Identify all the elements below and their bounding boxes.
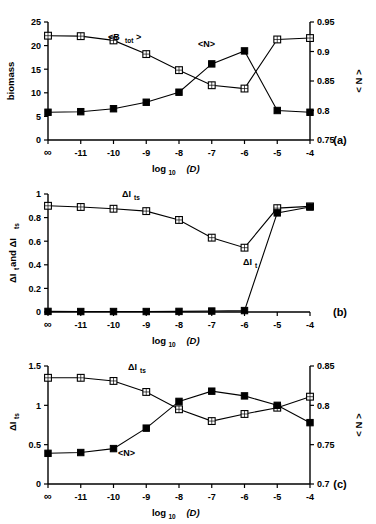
x-tick-label: -7 [208,492,216,502]
y-axis-left-title-text: ΔI [7,274,18,283]
series-it-marker [274,210,280,216]
x-tick-label: -6 [240,148,248,158]
curve-label-its: ΔIts [128,362,146,374]
series-n-marker [143,425,149,431]
curve-label-its: ΔIts [122,189,140,201]
panel-b-plot: 00.20.40.60.81∞-11-10-9-8-7-6-5-4log10(D… [0,172,376,348]
y-right-tick-label: 0.95 [317,17,335,27]
curve-label-btot-end: > [136,32,141,42]
series-n-marker [209,61,215,67]
x-tick-label: ∞ [44,146,52,158]
y-left-tick-label: 1 [36,189,41,199]
y-axis-left-title-mid: and ΔI [7,238,18,267]
y-left-tick-label: 1.5 [28,361,41,371]
y-left-tick-label: 0.4 [28,260,41,270]
panel-b: 00.20.40.60.81∞-11-10-9-8-7-6-5-4log10(D… [0,172,376,348]
series-n-line [48,51,310,112]
x-tick-label: -4 [306,148,314,158]
curve-label-n: <N> [118,448,135,458]
panel-tag-c: (c) [333,478,347,490]
curve-label-its-sub: ts [140,367,146,374]
curve-label-btot-text: <B [108,32,120,42]
y-right-tick-label: 0.8 [317,401,330,411]
figure-container: 05101520250.750.80.850.90.95∞-11-10-9-8-… [0,0,376,524]
y-axis-right-title-text: < N > [353,69,364,93]
series-n-marker [143,99,149,105]
y-axis-left-title-sub: ts [13,413,20,419]
series-n-marker [176,398,182,404]
series-n-marker [45,109,51,115]
x-tick-label: -6 [240,320,248,330]
series-n-marker [110,445,116,451]
x-tick-label: -6 [240,492,248,502]
series-n-marker [176,89,182,95]
y-axis-left-title-text: biomass [5,62,16,101]
x-tick-label: -11 [74,492,87,502]
series-its-line [48,206,310,248]
series-btot-line [48,36,310,89]
y-axis-right-title: < N > [353,413,364,437]
series-it-marker [110,308,116,314]
series-n-marker [307,419,313,425]
panel-a: 05101520250.750.80.850.90.95∞-11-10-9-8-… [0,0,376,176]
series-it-marker [78,308,84,314]
y-left-tick-label: 0 [36,135,41,145]
series-n-marker [45,450,51,456]
y-left-tick-label: 15 [31,65,41,75]
y-left-tick-label: 20 [31,41,41,51]
y-right-tick-label: 0.85 [317,361,335,371]
x-tick-label: -5 [273,148,281,158]
x-tick-label: -5 [273,492,281,502]
series-n-marker [307,109,313,115]
x-tick-label: -8 [175,320,183,330]
x-tick-label: -8 [175,148,183,158]
y-axis-left-title-sub2: ts [13,223,20,229]
x-tick-label: ∞ [44,318,52,330]
x-axis-title-var: (D) [186,507,199,518]
curve-label-it: ΔIt [243,257,258,269]
series-n-marker [110,106,116,112]
y-axis-right-title: < N > [353,69,364,93]
y-right-tick-label: 0.75 [317,440,335,450]
y-left-tick-label: 25 [31,17,41,27]
series-n-marker [78,449,84,455]
y-axis-left-title-text: ΔI [7,422,18,431]
series-it-marker [143,308,149,314]
y-left-tick-label: 0.6 [28,237,41,247]
series-n-marker [241,393,247,399]
x-tick-label: -7 [208,148,216,158]
x-tick-label: ∞ [44,490,52,502]
series-n-marker [209,388,215,394]
curve-label-it-sub: t [255,262,258,269]
curve-label-it-text: ΔI [243,257,252,267]
series-it-marker [307,204,313,210]
x-tick-label: -4 [306,492,314,502]
panel-a-plot: 05101520250.750.80.850.90.95∞-11-10-9-8-… [0,0,376,176]
x-tick-label: -5 [273,320,281,330]
series-n-marker [274,107,280,113]
x-tick-label: -8 [175,492,183,502]
x-tick-label: -10 [107,148,120,158]
y-left-tick-label: 0.8 [28,213,41,223]
x-tick-label: -10 [107,320,120,330]
x-tick-label: -9 [142,320,150,330]
series-n [45,388,313,457]
curve-label-its-sub: ts [134,194,140,201]
curve-label-its-text: ΔI [122,189,131,199]
series-n-marker [274,402,280,408]
y-axis-right-title-text: < N > [353,413,364,437]
y-left-tick-label: 10 [31,88,41,98]
panel-tag-a: (a) [333,134,347,146]
y-left-tick-label: 5 [36,112,41,122]
y-axis-left-title: ΔIt and ΔIts [7,223,20,283]
y-left-tick-label: 0 [36,479,41,489]
x-tick-label: -11 [74,320,87,330]
series-it-marker [241,307,247,313]
y-right-tick-label: 0.75 [317,135,335,145]
curve-label-its-text: ΔI [128,362,137,372]
y-right-tick-label: 0.7 [317,479,330,489]
series-n [45,48,313,116]
y-left-tick-label: 1 [36,401,41,411]
x-tick-label: -4 [306,320,314,330]
x-tick-label: -7 [208,320,216,330]
